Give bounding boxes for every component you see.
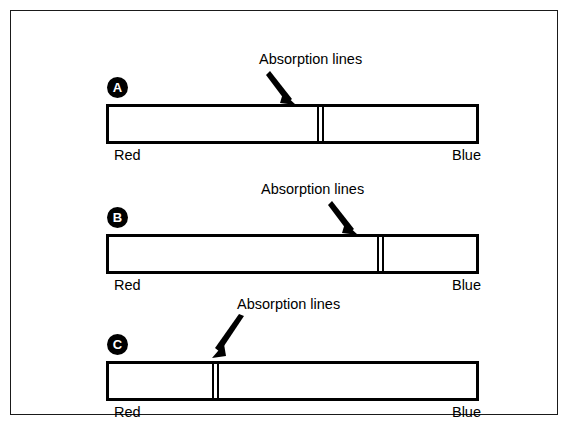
blue-end-label-c: Blue — [452, 404, 481, 420]
absorption-lines-a — [317, 104, 325, 144]
red-end-label-c: Red — [114, 404, 141, 420]
callout-arrow-b — [328, 199, 408, 239]
spectrum-bar-a — [106, 104, 479, 144]
absorption-lines-b — [377, 234, 385, 274]
absorption-line — [217, 361, 219, 401]
panel-c: C Absorption lines Red Blue — [11, 286, 559, 411]
panel-b: B Absorption lines Red Blue — [11, 159, 559, 284]
absorption-lines-c — [212, 361, 220, 401]
absorption-line — [322, 104, 324, 144]
absorption-lines-label-c: Absorption lines — [237, 296, 340, 312]
panel-badge-a: A — [107, 77, 128, 98]
absorption-line — [382, 234, 384, 274]
panel-badge-c: C — [107, 334, 128, 355]
spectrum-bar-c — [106, 361, 479, 401]
callout-arrow-c — [206, 314, 266, 362]
panel-badge-b: B — [107, 207, 128, 228]
absorption-line — [317, 104, 319, 144]
figure-border-frame: A Absorption lines Red Blue B Absorption… — [10, 10, 558, 415]
panel-a: A Absorption lines Red Blue — [11, 29, 559, 154]
absorption-line — [377, 234, 379, 274]
absorption-lines-label-b: Absorption lines — [261, 181, 364, 197]
callout-arrow-a — [266, 69, 346, 109]
spectrum-bar-b — [106, 234, 479, 274]
absorption-line — [212, 361, 214, 401]
absorption-lines-label-a: Absorption lines — [259, 51, 362, 67]
